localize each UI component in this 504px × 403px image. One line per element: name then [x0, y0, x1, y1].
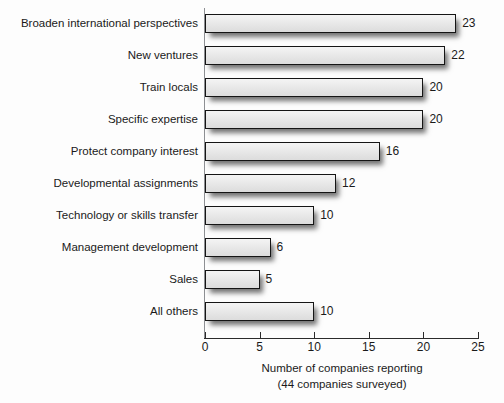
x-axis-caption-line1: Number of companies reporting — [204, 360, 480, 376]
bar — [205, 238, 271, 257]
bar — [205, 142, 380, 161]
bar-row: Sales5 — [0, 270, 504, 294]
bar-value-label: 6 — [277, 240, 284, 255]
category-label: Protect company interest — [2, 144, 198, 159]
bar-chart: 0510152025 Broaden international perspec… — [0, 0, 504, 403]
bar-row: Protect company interest16 — [0, 142, 504, 166]
bar-value-label: 16 — [386, 144, 399, 159]
category-label: Sales — [2, 272, 198, 287]
category-label: All others — [2, 304, 198, 319]
x-axis-tick-label: 15 — [362, 340, 375, 354]
category-label: Specific expertise — [2, 112, 198, 127]
x-axis-tick — [260, 332, 261, 339]
bar-wrapper — [205, 46, 445, 65]
bar-row: Specific expertise20 — [0, 110, 504, 134]
bar-value-label: 10 — [320, 304, 333, 319]
bar — [205, 110, 423, 129]
x-axis-tick — [423, 332, 424, 339]
bar-value-label: 20 — [429, 112, 442, 127]
bar-wrapper — [205, 238, 271, 257]
bar-wrapper — [205, 302, 314, 321]
bar-wrapper — [205, 14, 456, 33]
value-axis-line — [204, 338, 479, 339]
x-axis-tick-label: 20 — [417, 340, 430, 354]
bar — [205, 14, 456, 33]
bar-value-label: 12 — [342, 176, 355, 191]
category-label: Train locals — [2, 80, 198, 95]
category-label: Management development — [2, 240, 198, 255]
bar-row: New ventures22 — [0, 46, 504, 70]
bar-value-label: 23 — [462, 16, 475, 31]
bar-row: Developmental assignments12 — [0, 174, 504, 198]
category-label: New ventures — [2, 48, 198, 63]
bar-value-label: 22 — [451, 48, 464, 63]
x-axis-tick-label: 5 — [256, 340, 263, 354]
x-axis-tick-label: 25 — [471, 340, 484, 354]
bar-wrapper — [205, 270, 260, 289]
x-axis-tick — [369, 332, 370, 339]
bar-wrapper — [205, 78, 423, 97]
category-label: Developmental assignments — [2, 176, 198, 191]
plot-area: 0510152025 Broaden international perspec… — [0, 0, 504, 403]
bar-row: Management development6 — [0, 238, 504, 262]
bar-wrapper — [205, 206, 314, 225]
bar — [205, 206, 314, 225]
bar — [205, 270, 260, 289]
x-axis-tick — [314, 332, 315, 339]
bar — [205, 302, 314, 321]
x-axis-caption-line2: (44 companies surveyed) — [204, 376, 480, 392]
bar-wrapper — [205, 174, 336, 193]
bar-value-label: 5 — [266, 272, 273, 287]
bar-value-label: 20 — [429, 80, 442, 95]
bar-row: Train locals20 — [0, 78, 504, 102]
x-axis-tick — [478, 332, 479, 339]
category-label: Technology or skills transfer — [2, 208, 198, 223]
bar-wrapper — [205, 110, 423, 129]
bar — [205, 46, 445, 65]
bar-row: Broaden international perspectives23 — [0, 14, 504, 38]
category-label: Broaden international perspectives — [2, 16, 198, 31]
x-axis-tick-label: 0 — [202, 340, 209, 354]
bar-row: Technology or skills transfer10 — [0, 206, 504, 230]
bar — [205, 78, 423, 97]
bar — [205, 174, 336, 193]
bar-row: All others10 — [0, 302, 504, 326]
x-axis-tick — [205, 332, 206, 339]
bar-value-label: 10 — [320, 208, 333, 223]
x-axis-caption: Number of companies reporting (44 compan… — [204, 360, 480, 392]
x-axis-tick-label: 10 — [308, 340, 321, 354]
bar-wrapper — [205, 142, 380, 161]
